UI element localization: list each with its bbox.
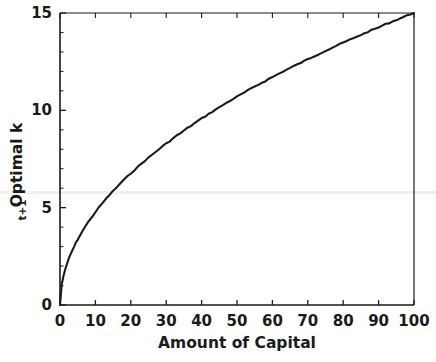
x-axis-title: Amount of Capital	[158, 334, 316, 352]
y-tick-labels: 051015	[31, 4, 52, 314]
x-tick-label-10: 10	[85, 312, 106, 330]
chart-canvas: 0102030405060708090100 051015 Amount of …	[0, 0, 436, 362]
x-tick-marks	[60, 13, 414, 305]
y-tick-label-15: 15	[31, 4, 52, 22]
x-tick-label-80: 80	[333, 312, 354, 330]
x-tick-label-70: 70	[297, 312, 318, 330]
axes-frame	[60, 13, 414, 305]
data-series-line	[60, 13, 414, 305]
y-tick-label-0: 0	[42, 296, 52, 314]
x-tick-label-40: 40	[191, 312, 212, 330]
x-tick-label-100: 100	[398, 312, 429, 330]
x-tick-label-20: 20	[120, 312, 141, 330]
x-tick-label-0: 0	[55, 312, 65, 330]
chart-figure: 0102030405060708090100 051015 Amount of …	[0, 0, 436, 362]
y-axis-title: Optimal k	[8, 122, 26, 207]
y-axis-title-subscript: t+1	[16, 199, 28, 220]
x-tick-labels: 0102030405060708090100	[55, 312, 430, 330]
x-tick-label-90: 90	[368, 312, 389, 330]
y-tick-label-5: 5	[42, 199, 52, 217]
y-axis-title-group: Optimal k t+1	[8, 122, 28, 221]
x-tick-label-50: 50	[227, 312, 248, 330]
y-tick-label-10: 10	[31, 101, 52, 119]
x-tick-label-60: 60	[262, 312, 283, 330]
y-tick-marks	[60, 13, 66, 305]
x-tick-label-30: 30	[156, 312, 177, 330]
